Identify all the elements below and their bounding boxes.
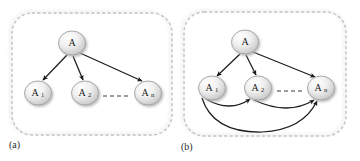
a-node-root-label: A: [68, 37, 76, 48]
a-node-an: A n: [135, 81, 162, 105]
b-node-a1: A 1: [199, 76, 226, 100]
a-node-an-label: A: [141, 87, 149, 98]
a-node-a1-label: A: [31, 87, 39, 98]
b-node-a1-label: A: [205, 82, 213, 93]
a-node-a1-subscript: 1: [41, 91, 44, 98]
panel-b-caption: (b): [181, 141, 193, 153]
b-node-an: A n: [308, 76, 335, 100]
a-node-root: A: [59, 31, 86, 55]
b-node-a2-subscript: 2: [261, 86, 264, 93]
b-node-a1-subscript: 1: [215, 86, 218, 93]
a-node-a2-label: A: [78, 87, 86, 98]
panel-a-caption: (a): [9, 139, 20, 151]
a-node-a2: A 2: [72, 81, 99, 105]
figure-background: [0, 0, 360, 161]
b-node-root-label: A: [241, 36, 249, 47]
b-node-an-label: A: [314, 82, 322, 93]
a-node-a1: A 1: [25, 81, 52, 105]
b-node-a2: A 2: [245, 76, 272, 100]
figure-two-panel-dag-diagram: A A 1 A 2 A n (a): [0, 0, 360, 161]
b-node-a2-label: A: [251, 82, 259, 93]
a-node-a2-subscript: 2: [88, 91, 91, 98]
b-node-root: A: [232, 30, 259, 54]
